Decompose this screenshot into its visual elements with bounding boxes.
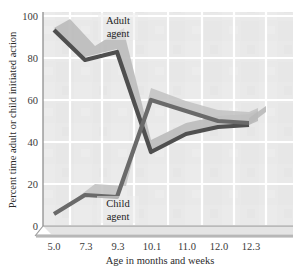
y-tick-label-0: 0 — [33, 221, 38, 232]
child-agent-label-line2: agent — [107, 211, 130, 222]
child-agent-annotation: Child agent — [97, 196, 139, 223]
x-tick-label-3: 10.1 — [143, 241, 161, 252]
x-tick-label-4: 11.0 — [178, 241, 196, 252]
x-axis-title: Age in months and weeks — [106, 255, 214, 266]
x-tick-label-5: 12.0 — [210, 241, 228, 252]
x-tick-label-0: 5.0 — [47, 241, 60, 252]
x-tick-label-2: 9.3 — [111, 241, 124, 252]
adult-agent-label-line2: agent — [107, 28, 130, 39]
y-axis-title: Percent time adult or child initiated ac… — [7, 31, 18, 208]
y-tick-label-100: 100 — [22, 11, 38, 22]
chart-figure: 100 80 60 40 20 0 5.0 7.3 9.3 10.1 11.0 … — [0, 0, 293, 269]
adult-agent-label-line1: Adult — [106, 15, 130, 26]
y-tick-label-40: 40 — [28, 137, 39, 148]
x-tick-label-1: 7.3 — [79, 241, 92, 252]
y-tick-label-60: 60 — [28, 95, 39, 106]
y-tick-label-20: 20 — [28, 179, 39, 190]
child-agent-label-line1: Child — [106, 198, 130, 209]
y-tick-label-80: 80 — [28, 53, 39, 64]
adult-agent-annotation: Adult agent — [98, 13, 138, 40]
line-chart-svg: 100 80 60 40 20 0 5.0 7.3 9.3 10.1 11.0 … — [0, 0, 293, 269]
floor-slab-top — [43, 226, 293, 234]
x-tick-label-6: 12.3 — [242, 241, 260, 252]
